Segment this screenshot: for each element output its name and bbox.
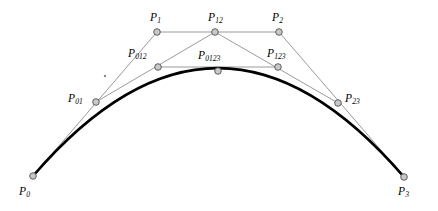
stray-mark [104, 75, 106, 77]
point-label-subscript-P12: 12 [215, 16, 223, 25]
point-label-P0123: P0123 [198, 50, 220, 62]
control-point-node-P01[interactable] [93, 99, 100, 106]
point-label-subscript-P0: 0 [26, 190, 30, 199]
point-label-P2: P2 [272, 12, 283, 24]
control-point-node-P012[interactable] [155, 64, 162, 71]
point-label-P01: P01 [68, 93, 83, 105]
control-point-node-P1[interactable] [154, 29, 161, 36]
point-label-subscript-P23: 23 [352, 97, 360, 106]
point-label-subscript-P3: 3 [405, 190, 409, 199]
control-point-node-P3[interactable] [401, 174, 408, 181]
control-point-node-P12[interactable] [212, 29, 219, 36]
point-label-subscript-P123: 123 [274, 52, 285, 61]
point-label-P3: P3 [398, 186, 409, 198]
point-label-subscript-P1: 1 [157, 16, 161, 25]
point-label-subscript-P2: 2 [279, 16, 283, 25]
control-point-node-P0[interactable] [30, 173, 37, 180]
control-point-node-P2[interactable] [276, 29, 283, 36]
point-label-subscript-P012: 012 [135, 52, 146, 61]
cubic-bezier-curve [33, 68, 404, 177]
figure-canvas [0, 0, 438, 211]
point-label-P1: P1 [150, 12, 161, 24]
control-point-node-P0123[interactable] [215, 68, 222, 75]
control-point-node-P123[interactable] [275, 64, 282, 71]
point-label-P123: P123 [267, 48, 286, 60]
point-label-subscript-P0123: 0123 [205, 54, 220, 63]
point-label-P0: P0 [19, 186, 30, 198]
point-label-P012: P012 [128, 48, 147, 60]
point-label-P23: P23 [345, 93, 360, 105]
control-point-node-P23[interactable] [335, 100, 342, 107]
point-label-subscript-P01: 01 [75, 97, 83, 106]
point-label-P12: P12 [208, 12, 223, 24]
